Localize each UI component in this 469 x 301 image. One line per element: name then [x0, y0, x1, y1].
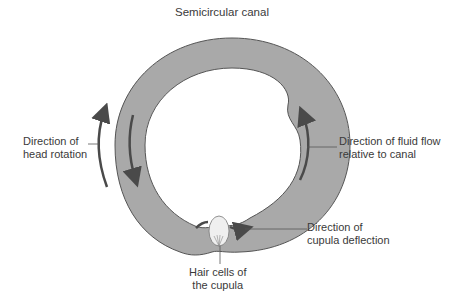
head-rotation-label: Direction of head rotation	[23, 135, 87, 161]
head-rotation-arrow	[99, 112, 107, 187]
diagram-title: Semicircular canal	[175, 6, 269, 19]
cupula-deflection-label: Direction of cupula deflection	[307, 221, 390, 247]
hair-cells-label: Hair cells of the cupula	[189, 266, 246, 292]
cupula	[209, 216, 229, 246]
fluid-flow-label: Direction of fluid flow relative to cana…	[339, 135, 441, 161]
